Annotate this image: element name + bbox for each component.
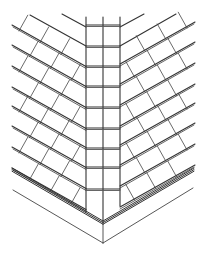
left-shingle-joint	[40, 108, 49, 124]
left-course-line	[12, 147, 86, 188]
left-shingle-joint	[19, 96, 28, 112]
left-shingle-joint	[71, 65, 80, 81]
right-course-line	[120, 63, 195, 105]
right-course-line	[120, 105, 194, 147]
left-shingle-joint	[61, 80, 70, 96]
left-shingle-joint	[50, 95, 59, 111]
left-shingle-joint	[61, 161, 70, 177]
left-shingle-joint	[50, 176, 59, 192]
right-eave-line	[103, 171, 194, 224]
right-shingle-joint	[126, 104, 135, 120]
left-course-line	[12, 25, 86, 66]
right-course-line	[120, 167, 194, 209]
right-course-line	[120, 22, 195, 64]
right-shingle-joint	[147, 92, 156, 108]
right-shingle-joint	[136, 117, 145, 133]
right-shingle-joint	[126, 185, 135, 201]
left-shingle-joint	[50, 53, 59, 69]
right-roof-plane	[120, 12, 195, 209]
left-shingle-joint	[40, 27, 49, 43]
right-shingle-joint	[126, 143, 135, 159]
right-course-line	[120, 144, 195, 186]
right-course-line	[120, 14, 176, 46]
right-shingle-joint	[178, 134, 187, 150]
right-shingle-joint	[157, 146, 166, 162]
right-course-line	[120, 103, 195, 145]
left-shingle-joint	[29, 122, 38, 138]
left-shingle-joint	[40, 149, 49, 165]
left-shingle-joint	[19, 15, 28, 31]
left-course-line	[12, 66, 86, 107]
left-course-line	[13, 128, 86, 169]
left-course-line	[12, 45, 86, 86]
left-eave-line	[12, 168, 103, 221]
right-shingle-joint	[136, 77, 145, 93]
left-shingle-joint	[29, 41, 38, 57]
right-shingle-joint	[157, 24, 166, 40]
left-shingle-joint	[29, 164, 38, 180]
valley-shingle-drawing	[0, 0, 206, 256]
left-course-line	[12, 126, 86, 167]
right-shingle-joint	[147, 173, 156, 189]
right-course-line	[120, 14, 144, 27]
left-shingle-joint	[29, 83, 38, 99]
right-shingle-joint	[126, 62, 135, 78]
left-roof-plane	[12, 14, 86, 211]
left-shingle-joint	[19, 137, 28, 153]
right-shingle-joint	[168, 80, 177, 96]
right-shingle-joint	[168, 119, 177, 135]
left-shingle-joint	[19, 56, 28, 72]
left-shingle-joint	[71, 188, 80, 204]
right-shingle-joint	[136, 36, 145, 52]
left-eave-line	[12, 170, 103, 223]
left-course-line	[13, 47, 86, 88]
left-course-line	[12, 106, 86, 147]
right-course-line	[120, 165, 195, 207]
right-shingle-joint	[157, 65, 166, 81]
right-shingle-joint	[147, 131, 156, 147]
left-shingle-joint	[61, 120, 70, 136]
left-shingle-joint	[50, 134, 59, 150]
right-shingle-joint	[168, 38, 177, 54]
right-shingle-joint	[157, 105, 166, 121]
right-shingle-joint	[168, 161, 177, 177]
left-shingle-joint	[61, 39, 70, 55]
right-shingle-joint	[147, 50, 156, 66]
left-course-line	[13, 89, 86, 130]
right-shingle-joint	[178, 93, 187, 109]
right-course-line	[120, 24, 194, 66]
left-shingle-joint	[40, 68, 49, 84]
right-shingle-joint	[178, 53, 187, 69]
right-course-line	[120, 86, 194, 128]
center-valley-column	[86, 17, 120, 222]
right-shingle-joint	[136, 158, 145, 174]
left-shingle-joint	[71, 146, 80, 162]
right-shingle-joint	[178, 12, 187, 28]
left-course-line	[62, 14, 86, 27]
left-shingle-joint	[71, 107, 80, 123]
